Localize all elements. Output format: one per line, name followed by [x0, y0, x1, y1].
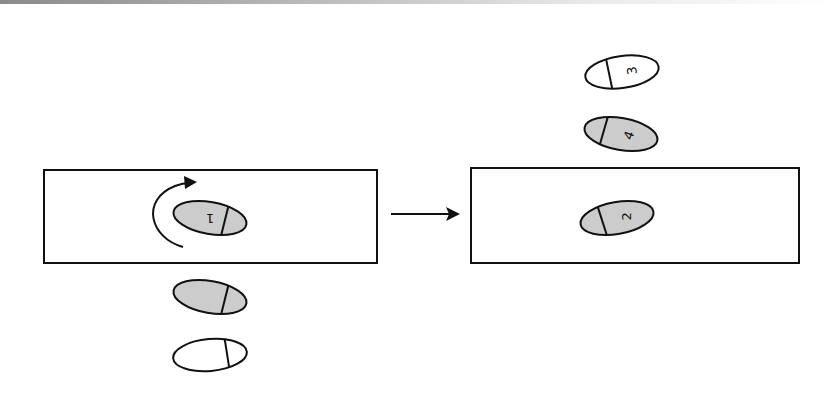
foot-2-label: 2 [619, 212, 634, 220]
foot-gray-below [171, 275, 249, 319]
right-arrow-icon [391, 207, 460, 221]
footstep-diagram: 1 3 4 2 [0, 0, 831, 404]
foot-white-bottom [172, 336, 249, 374]
foot-3: 3 [583, 51, 661, 93]
foot-1-label: 1 [206, 211, 214, 226]
foot-2: 2 [578, 196, 656, 240]
foot-4: 4 [582, 112, 660, 156]
foot-1: 1 [171, 196, 249, 240]
